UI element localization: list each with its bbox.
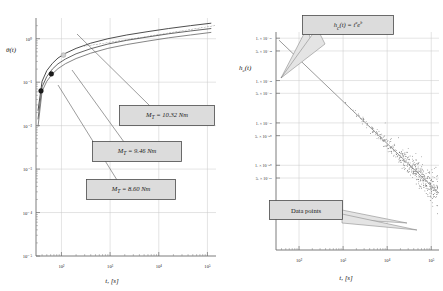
right-data-point [359, 116, 360, 117]
left-curve-speckle [203, 27, 204, 28]
left-ytick-label: 10⁻¹ [23, 80, 33, 85]
right-data-point [418, 181, 419, 182]
right-data-point [415, 153, 416, 154]
left-curve-speckle [128, 39, 129, 40]
right-data-point [372, 132, 373, 133]
right-data-point [419, 177, 420, 178]
right-data-point [434, 190, 435, 191]
right-data-point [416, 163, 417, 164]
right-power-law-fit [279, 40, 439, 193]
right-data-point [436, 185, 437, 186]
callout-torque-9-46[interactable]: MT = 9.46 Nm [92, 141, 182, 162]
right-data-point [430, 180, 431, 181]
left-curve-speckle [191, 29, 192, 30]
left-x-axis-title: t, [s] [105, 277, 119, 285]
right-ytick-label: 5. × 10⁻⁴⁸ [256, 49, 273, 54]
right-data-point [391, 138, 392, 139]
left-curve-speckle [125, 39, 126, 40]
left-curve-speckle [97, 44, 98, 45]
left-curve-speckle [205, 27, 206, 28]
right-data-point [436, 179, 437, 180]
left-curve-speckle [154, 35, 155, 36]
right-data-point [413, 172, 414, 173]
right-data-point [437, 205, 438, 206]
right-data-point [428, 196, 429, 197]
right-data-point [421, 166, 422, 167]
left-curve-speckle [121, 40, 122, 41]
right-data-point [415, 168, 416, 169]
right-data-point [418, 166, 419, 167]
callout-fit-equation[interactable]: hc(t) = taeb [302, 15, 394, 35]
left-curve-marker [61, 53, 66, 58]
right-data-point [430, 193, 431, 194]
right-data-point [422, 169, 423, 170]
right-data-point [383, 146, 384, 147]
right-data-point [376, 131, 377, 132]
right-data-point [425, 178, 426, 179]
right-data-point [410, 175, 411, 176]
right-data-point [415, 164, 416, 165]
right-data-point [425, 181, 426, 182]
right-data-point [403, 161, 404, 162]
right-data-point [411, 171, 412, 172]
right-data-point [429, 171, 430, 172]
right-data-point [417, 179, 418, 180]
right-data-point [398, 155, 399, 156]
right-data-point [413, 160, 414, 161]
right-data-point [424, 190, 425, 191]
right-data-point [399, 158, 400, 159]
right-data-point [405, 158, 406, 159]
right-data-point [367, 123, 368, 124]
callout-torque-8-60-text: MT = 8.60 Nm [112, 185, 151, 194]
right-data-point [407, 152, 408, 153]
left-curve-speckle [184, 30, 185, 31]
right-data-point [402, 160, 403, 161]
right-data-point [399, 152, 400, 153]
right-data-point [437, 187, 438, 188]
right-data-point [434, 168, 435, 169]
callout-torque-10-32[interactable]: MT = 10.32 Nm [119, 105, 215, 126]
left-curve-speckle [127, 39, 128, 40]
right-data-point [366, 127, 367, 128]
callout-data-points[interactable]: Data points [269, 200, 343, 220]
left-curve-speckle [172, 32, 173, 33]
right-data-point [407, 170, 408, 171]
right-data-point [432, 172, 433, 173]
right-data-point [425, 186, 426, 187]
right-data-point [435, 197, 436, 198]
right-data-point [419, 186, 420, 187]
left-xtick-label: 10⁵ [204, 264, 211, 269]
right-data-point [407, 171, 408, 172]
right-data-point [396, 154, 397, 155]
right-data-point [421, 168, 422, 169]
right-data-point [418, 183, 419, 184]
right-data-point [372, 127, 373, 128]
left-curve-speckle [118, 41, 119, 42]
left-curve-speckle [144, 36, 145, 37]
callout-torque-8-60[interactable]: MT = 8.60 Nm [86, 179, 176, 200]
right-data-point [394, 144, 395, 145]
right-data-point [403, 156, 404, 157]
left-curve-speckle [178, 31, 179, 32]
right-data-point [408, 172, 409, 173]
left-curve-speckle [156, 35, 157, 36]
right-data-point [430, 186, 431, 187]
right-data-point [404, 169, 405, 170]
right-data-point [398, 137, 399, 138]
right-scatter-points [345, 102, 438, 214]
right-data-point [425, 184, 426, 185]
right-data-point [423, 185, 424, 186]
right-data-point [362, 121, 363, 122]
right-data-point [423, 171, 424, 172]
right-data-point [423, 176, 424, 177]
right-data-point [377, 129, 378, 130]
left-curve-speckle [200, 28, 201, 29]
left-curve-speckle [213, 26, 214, 27]
left-curve-speckle [151, 35, 152, 36]
right-data-point [406, 160, 407, 161]
right-data-point [419, 171, 420, 172]
right-data-point [429, 196, 430, 197]
left-curve-speckle [201, 27, 202, 28]
right-data-point [433, 190, 434, 191]
left-curve-speckle [198, 28, 199, 29]
